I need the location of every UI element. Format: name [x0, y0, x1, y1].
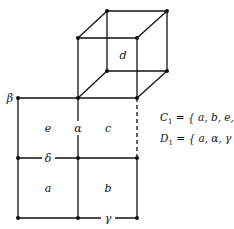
set-name: C: [160, 111, 168, 123]
equals-sign: =: [176, 111, 185, 123]
set-definitions: C1 = { a, b, e, d } D1 = { a, α, γ }: [160, 109, 234, 151]
vertices: [16, 9, 169, 220]
vertex: [135, 96, 139, 100]
vertex: [16, 96, 20, 100]
region-label-c: c: [105, 122, 111, 135]
region-label-a: a: [45, 182, 52, 195]
set-members: { a, α, γ }: [188, 132, 234, 144]
cube-depth-edge-tr: [137, 11, 167, 38]
edge-label-delta: δ: [45, 152, 52, 165]
vertex: [16, 156, 20, 160]
region-label-b: b: [104, 182, 111, 195]
set-subscript: 1: [168, 139, 172, 147]
cube-label-d: d: [119, 49, 126, 62]
set-c1: C1 = { a, b, e, d }: [160, 109, 234, 130]
set-d1: D1 = { a, α, γ }: [160, 130, 234, 151]
cube-depth-edge-bl: [78, 71, 107, 98]
edge-label-alpha: α: [74, 122, 82, 135]
vertex: [76, 216, 80, 220]
cube-depth-edge-br: [137, 71, 167, 98]
region-label-e: e: [45, 122, 52, 135]
vertex: [16, 216, 20, 220]
vertex: [76, 36, 80, 40]
vertex: [76, 96, 80, 100]
set-subscript: 1: [168, 118, 172, 126]
vertex: [135, 156, 139, 160]
vertex: [135, 216, 139, 220]
equals-sign: =: [176, 132, 185, 144]
vertex: [76, 156, 80, 160]
edge-label-beta: β: [6, 92, 13, 105]
vertex: [135, 36, 139, 40]
edge-label-gamma: γ: [105, 212, 112, 225]
vertex: [165, 69, 169, 73]
set-members: { a, b, e, d }: [188, 111, 234, 123]
vertex: [165, 9, 169, 13]
vertex: [105, 9, 109, 13]
cube-depth-edge-tl: [78, 11, 107, 38]
vertex: [105, 69, 109, 73]
